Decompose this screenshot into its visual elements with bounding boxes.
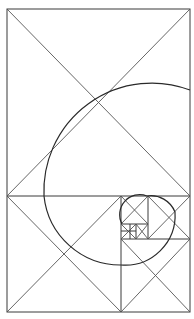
square-6 bbox=[121, 224, 148, 239]
diagram-svg bbox=[0, 0, 194, 319]
square-3 bbox=[121, 239, 190, 312]
golden-ratio-diagram bbox=[0, 0, 194, 319]
outer-rectangle bbox=[7, 9, 190, 312]
square-1 bbox=[7, 9, 190, 196]
square-2 bbox=[7, 196, 121, 312]
